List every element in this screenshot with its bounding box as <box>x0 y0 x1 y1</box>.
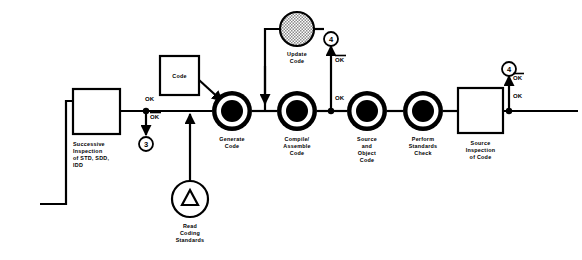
edge-label-text: OK <box>335 57 345 63</box>
box-label-successive-line1: Successive <box>73 141 105 147</box>
connector-3[interactable]: 3 <box>139 137 153 151</box>
process-label-perform-line1: Perform <box>412 136 434 142</box>
edge-label-ok-successive-right: OK <box>145 96 155 102</box>
edge-label-text: OK <box>145 96 155 102</box>
process-label-compile-line2: Assemble <box>283 143 310 149</box>
node-label-standards-line1: Read <box>183 223 197 229</box>
flowchart-svg: Generate Code Compile/ Assemble Code Sou… <box>0 0 582 260</box>
process-label-perform-line2: Standards <box>409 143 438 149</box>
process-label-perform-line3: Check <box>414 150 431 156</box>
junction-dot-successive <box>143 108 149 114</box>
junction-dot-inspection <box>506 108 512 114</box>
process-label-sourceobj-line3: Object <box>358 150 376 156</box>
box-label-code: Code <box>172 73 186 79</box>
node-label-standards-line2: Coding <box>180 230 200 236</box>
process-node-source-and-object-code[interactable]: Source and Object Code <box>347 91 387 163</box>
process-label-generate-code: Generate <box>219 136 244 142</box>
line-updatecode-left-leg <box>265 29 280 111</box>
process-label-compile-line1: Compile/ <box>285 136 310 142</box>
box-node-successive-inspection[interactable]: Successive Inspection of STD, SDD, IDD <box>73 89 120 168</box>
edge-label-notok-successive-down: OK <box>150 113 161 121</box>
process-label-sourceobj-line1: Source <box>357 136 377 142</box>
node-label-standards-line3: Standards <box>176 237 205 243</box>
edge-label-ok-compile-right: OK <box>335 95 345 101</box>
process-node-generate-code[interactable]: Generate Code <box>212 91 252 149</box>
process-label-sourceobj-line4: Code <box>360 157 374 163</box>
edge-label-text: OK <box>150 114 160 120</box>
box-label-successive-line3: of STD, SDD, <box>73 155 109 161</box>
node-label-update-code-line2: Code <box>290 58 304 64</box>
edge-label-notok-update-branch: OK <box>335 56 346 64</box>
box-label-successive-line4: IDD <box>73 162 83 168</box>
node-update-code[interactable]: Update Code <box>280 12 314 64</box>
edge-label-ok-source-inspection: OK <box>513 93 523 99</box>
edge-label-text: OK <box>513 93 523 99</box>
edge-label-text: OK <box>513 75 523 81</box>
box-label-inspection-line1: Source <box>471 140 491 146</box>
process-node-perform-standards-check[interactable]: Perform Standards Check <box>403 91 443 156</box>
connector-3-label: 3 <box>144 140 148 149</box>
box-label-successive-line2: Inspection <box>73 148 102 154</box>
process-label-sourceobj-line2: and <box>362 143 372 149</box>
process-node-compile-assemble-code[interactable]: Compile/ Assemble Code <box>277 91 317 156</box>
process-label-compile-line3: Code <box>290 150 304 156</box>
line-feedback-loop <box>40 101 73 204</box>
node-label-update-code-line1: Update <box>287 51 307 57</box>
box-node-source-inspection-of-code[interactable]: Source Inspection of Code <box>458 88 503 160</box>
box-label-inspection-line3: of Code <box>470 154 492 160</box>
process-label-generate-code-line2: Code <box>225 143 239 149</box>
node-read-coding-standards[interactable]: Read Coding Standards <box>172 181 208 243</box>
connector-4-top[interactable]: 4 <box>324 32 338 46</box>
diagram-canvas: Generate Code Compile/ Assemble Code Sou… <box>0 0 582 260</box>
edge-label-notok-source-inspection: OK <box>513 74 524 82</box>
box-node-code[interactable]: Code <box>160 56 199 95</box>
box-label-inspection-line2: Inspection <box>466 147 495 153</box>
edge-label-text: OK <box>335 95 345 101</box>
